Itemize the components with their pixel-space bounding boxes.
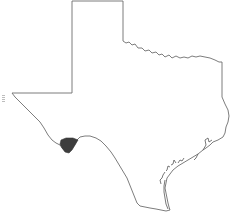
texas-state-outline	[12, 1, 229, 211]
edge-mark	[2, 95, 5, 102]
texas-map	[0, 0, 239, 219]
highlighted-county	[60, 138, 78, 153]
